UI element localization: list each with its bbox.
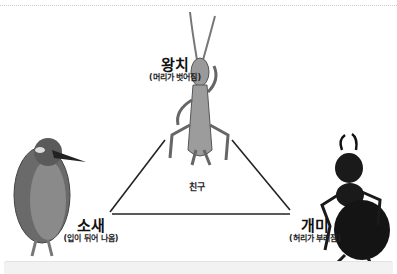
- center-label: 친구: [189, 180, 205, 193]
- bottom-bar: [4, 261, 393, 274]
- relationship-diagram: 왕치 (머리가 벗어짐) 소새 (입이 뒤어 나옴) 개미 (허리가 부러짐) …: [0, 0, 397, 274]
- edge-grasshopper-kingfisher: [110, 140, 165, 212]
- node-note: (입이 뒤어 나옴): [56, 234, 126, 244]
- node-ant: 개미 (허리가 부러짐): [280, 218, 350, 244]
- node-name: 왕치: [142, 57, 208, 73]
- node-note: (허리가 부러짐): [280, 234, 350, 244]
- node-note: (머리가 벗어짐): [142, 73, 208, 83]
- node-name: 소새: [56, 218, 126, 234]
- edge-grasshopper-ant: [232, 140, 290, 210]
- node-name: 개미: [280, 218, 350, 234]
- grasshopper-icon: [170, 12, 228, 165]
- node-kingfisher: 소새 (입이 뒤어 나옴): [56, 218, 126, 244]
- ant-icon: [322, 134, 390, 266]
- node-grasshopper: 왕치 (머리가 벗어짐): [142, 57, 208, 83]
